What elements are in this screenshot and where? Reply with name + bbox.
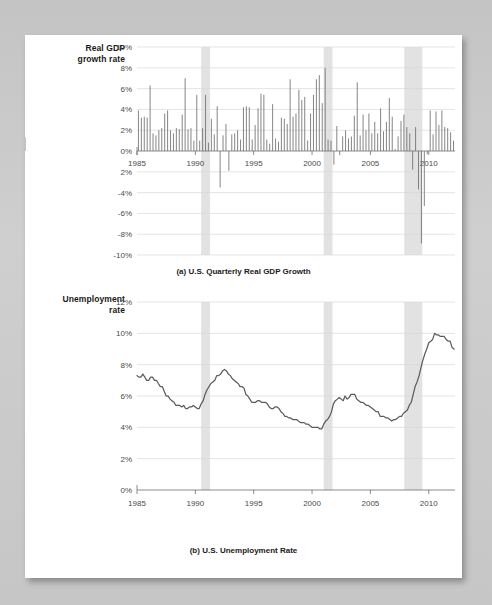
- figure-b-y-tick-label: 8%: [120, 361, 132, 370]
- figure-b-y-tick-label: 10%: [116, 329, 132, 338]
- figure-a-y-tick-label: 0%: [120, 147, 132, 156]
- figure-a-y-tick-label: 8%: [120, 64, 132, 73]
- figure-a-y-tick-label: 6%: [120, 85, 132, 94]
- figure-b-caption: (b) U.S. Unemployment Rate: [25, 546, 462, 555]
- figure-b-x-tick-label: 1990: [186, 499, 204, 508]
- figure-b-y-tick-label: 12%: [116, 298, 132, 307]
- figure-a-y-tick-label: 10%: [116, 43, 132, 52]
- unemployment-rate-chart: 12%10%8%6%4%2%0%198519901995200020052010: [25, 290, 462, 545]
- figure-b-x-tick-label: 1985: [128, 499, 146, 508]
- figure-b-y-tick-label: 4%: [120, 423, 132, 432]
- figure-a-x-tick-label: 1995: [245, 159, 263, 168]
- figure-a-x-tick-label: 2000: [303, 159, 321, 168]
- figure-a-x-tick-label: 2005: [361, 159, 379, 168]
- figure-a-y-tick-label: 2%: [120, 168, 132, 177]
- figure-a-y-tick-label: -4%: [118, 189, 132, 198]
- figure-b-x-tick-label: 2000: [303, 499, 321, 508]
- figure-b-y-tick-label: 0%: [120, 486, 132, 495]
- figure-b-x-tick-label: 2010: [420, 499, 438, 508]
- figure-a-x-tick-label: 1990: [186, 159, 204, 168]
- figure-a-x-tick-label: 1985: [128, 159, 146, 168]
- figure-a-y-tick-label: -8%: [118, 230, 132, 239]
- figure-b-y-tick-label: 6%: [120, 392, 132, 401]
- figure-b-x-tick-label: 2005: [361, 499, 379, 508]
- figure-a-y-tick-label: -6%: [118, 209, 132, 218]
- gdp-growth-chart: 10%8%6%4%2%0%2%-4%-6%-8%-10%198519901995…: [25, 35, 462, 275]
- figure-b-x-tick-label: 1995: [245, 499, 263, 508]
- figure-a-x-tick-label: 2010: [420, 159, 438, 168]
- figure-a-y-tick-label: -10%: [113, 251, 132, 260]
- figure-b-y-tick-label: 2%: [120, 455, 132, 464]
- figure-a-y-tick-label: 4%: [120, 105, 132, 114]
- figure-a-y-tick-label: 2%: [120, 126, 132, 135]
- figure-a-caption: (a) U.S. Quarterly Real GDP Growth: [25, 267, 462, 276]
- figure-card: Real GDP growth rate 10%8%6%4%2%0%2%-4%-…: [25, 35, 462, 578]
